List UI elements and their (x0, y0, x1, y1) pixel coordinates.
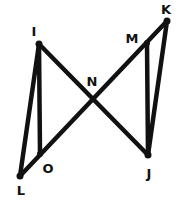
segment-IO (39, 44, 40, 154)
point-J (145, 152, 152, 159)
point-K (164, 18, 171, 25)
point-M (144, 40, 150, 46)
point-L (17, 173, 24, 180)
label-L: L (17, 184, 25, 197)
label-O: O (42, 162, 53, 175)
diagram-lines (0, 0, 180, 203)
label-N: N (87, 75, 98, 88)
geometry-diagram: I K M N L O J (0, 0, 180, 203)
label-K: K (161, 3, 171, 16)
label-I: I (32, 25, 37, 38)
point-O (37, 151, 43, 157)
label-J: J (147, 167, 152, 180)
point-N (90, 96, 96, 102)
label-M: M (126, 32, 139, 45)
segment-MJ (147, 43, 148, 155)
point-I (36, 41, 43, 48)
